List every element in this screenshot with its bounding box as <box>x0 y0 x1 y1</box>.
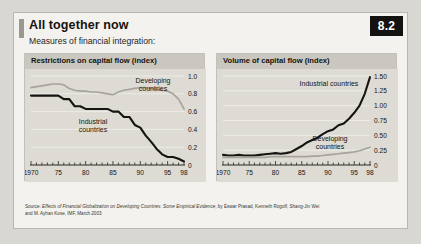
svg-text:98: 98 <box>366 169 374 176</box>
svg-text:0.2: 0.2 <box>188 144 197 151</box>
svg-text:85: 85 <box>298 169 306 176</box>
svg-text:Developing: Developing <box>135 77 170 85</box>
chart-panel-header-right: Volume of capital flow (index) <box>217 54 396 70</box>
svg-text:Developing: Developing <box>312 135 347 143</box>
line-chart-volume: 00.250.500.751.001.251.50197075808590959… <box>217 69 398 182</box>
chart-plot-left: 00.20.40.60.81.01970758085909598Developi… <box>25 69 204 182</box>
svg-text:1970: 1970 <box>217 169 231 176</box>
svg-text:90: 90 <box>137 169 145 176</box>
svg-text:98: 98 <box>180 169 188 176</box>
chart-plot-right: 00.250.500.751.001.251.50197075808590959… <box>217 69 396 182</box>
svg-text:1970: 1970 <box>25 169 39 176</box>
svg-text:75: 75 <box>55 169 63 176</box>
svg-text:0.75: 0.75 <box>374 117 387 124</box>
svg-text:0.6: 0.6 <box>188 108 197 115</box>
svg-text:countries: countries <box>316 143 345 150</box>
svg-text:countries: countries <box>79 126 108 133</box>
chart-panel-header-left: Restrictions on capital flow (index) <box>25 54 204 70</box>
chart-title-left: Restrictions on capital flow (index) <box>31 56 157 65</box>
svg-text:countries: countries <box>139 85 168 92</box>
svg-text:75: 75 <box>246 169 254 176</box>
figure-number-badge: 8.2 <box>370 16 403 36</box>
chart-panel-volume: Volume of capital flow (index) 00.250.50… <box>216 53 397 181</box>
svg-text:Industrial: Industrial <box>79 118 108 125</box>
svg-text:0.50: 0.50 <box>374 132 387 139</box>
line-chart-restrictions: 00.20.40.60.81.01970758085909598Developi… <box>25 69 206 182</box>
page-title: All together now <box>29 18 129 32</box>
svg-text:0: 0 <box>188 162 192 169</box>
svg-text:85: 85 <box>109 169 117 176</box>
svg-text:80: 80 <box>272 169 280 176</box>
figure-card: All together now Measures of financial i… <box>13 12 408 229</box>
svg-text:0: 0 <box>374 162 378 169</box>
figure-subtitle: Measures of financial integration: <box>29 36 155 46</box>
svg-text:0.25: 0.25 <box>374 147 387 154</box>
chart-title-right: Volume of capital flow (index) <box>223 56 330 65</box>
source-citation-line-2: and M. Ayhan Kose, IMF, March 2003 <box>25 210 400 217</box>
svg-text:1.50: 1.50 <box>374 73 387 80</box>
svg-text:95: 95 <box>164 169 172 176</box>
svg-text:Industrial countries: Industrial countries <box>300 80 359 87</box>
svg-text:80: 80 <box>82 169 90 176</box>
svg-text:1.00: 1.00 <box>374 102 387 109</box>
svg-text:95: 95 <box>351 169 359 176</box>
source-prefix: Source: <box>25 204 42 209</box>
title-accent-bar <box>19 19 24 38</box>
svg-text:0.4: 0.4 <box>188 126 197 133</box>
source-authors: , by Eswar Prasad, Kenneth Rogoff, Shang… <box>215 204 319 209</box>
svg-text:90: 90 <box>324 169 332 176</box>
svg-text:1.0: 1.0 <box>188 73 197 80</box>
source-title-italic: Effects of Financial Globalization on De… <box>42 204 215 209</box>
chart-panel-restrictions: Restrictions on capital flow (index) 00.… <box>24 53 205 181</box>
svg-text:0.8: 0.8 <box>188 90 197 97</box>
svg-text:1.25: 1.25 <box>374 87 387 94</box>
